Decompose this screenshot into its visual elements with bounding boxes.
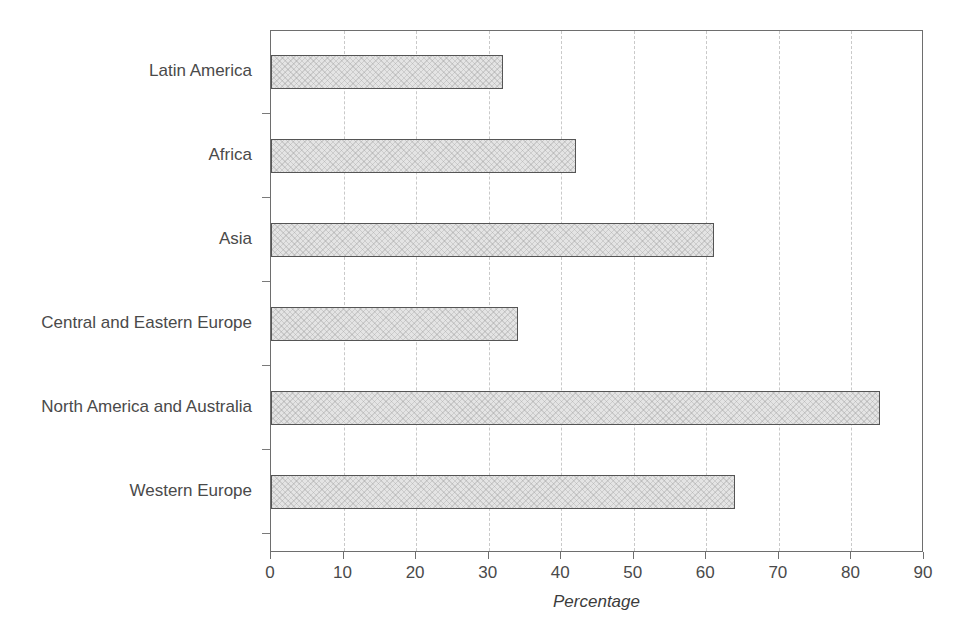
bar [271, 223, 714, 257]
x-axis-tick [778, 552, 779, 559]
y-axis-tick [262, 533, 270, 534]
x-axis-tick [343, 552, 344, 559]
x-axis-tick-label: 40 [530, 563, 590, 583]
x-axis-tick [560, 552, 561, 559]
bar [271, 391, 880, 425]
y-axis-tick [262, 197, 270, 198]
x-axis-tick [633, 552, 634, 559]
y-axis-tick [262, 365, 270, 366]
y-axis-label: Central and Eastern Europe [41, 314, 252, 331]
x-axis-tick [488, 552, 489, 559]
bar [271, 55, 503, 89]
x-axis-tick-label: 90 [893, 563, 953, 583]
x-axis-tick [270, 552, 271, 559]
y-axis-tick [262, 113, 270, 114]
gridline [561, 31, 562, 551]
gridline [344, 31, 345, 551]
y-axis-label: Africa [209, 146, 252, 163]
gridline [634, 31, 635, 551]
x-axis-tick-label: 20 [385, 563, 445, 583]
gridline [779, 31, 780, 551]
x-axis-tick-label: 10 [313, 563, 373, 583]
x-axis-tick-label: 60 [675, 563, 735, 583]
x-axis-tick [850, 552, 851, 559]
y-axis-label: Latin America [149, 62, 252, 79]
bar [271, 307, 518, 341]
x-axis-tick [705, 552, 706, 559]
x-axis-title: Percentage [270, 592, 923, 612]
x-axis-tick-label: 0 [240, 563, 300, 583]
plot-area [270, 30, 923, 552]
gridline [416, 31, 417, 551]
x-axis-tick [923, 552, 924, 559]
y-axis-label: Western Europe [129, 482, 252, 499]
y-axis-category-labels: Latin AmericaAfricaAsiaCentral and Easte… [0, 0, 262, 632]
gridline [851, 31, 852, 551]
x-axis-tick [415, 552, 416, 559]
x-axis-tick-label: 80 [820, 563, 880, 583]
bar-chart: Latin AmericaAfricaAsiaCentral and Easte… [0, 0, 972, 632]
bar [271, 139, 576, 173]
y-axis-label: Asia [219, 230, 252, 247]
gridline [706, 31, 707, 551]
y-axis-tick [262, 449, 270, 450]
x-axis-tick-label: 50 [603, 563, 663, 583]
y-axis-tick [262, 281, 270, 282]
x-axis-tick-label: 70 [748, 563, 808, 583]
x-axis-tick-label: 30 [458, 563, 518, 583]
bar [271, 475, 735, 509]
y-axis-label: North America and Australia [41, 398, 252, 415]
gridline [489, 31, 490, 551]
